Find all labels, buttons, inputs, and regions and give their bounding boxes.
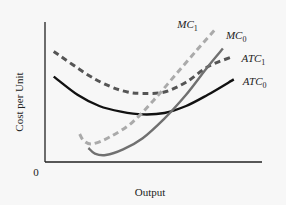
- label-atc1-main: ATC: [241, 52, 262, 64]
- x-axis-label: Output: [135, 186, 166, 198]
- label-mc1-subscript: 1: [194, 24, 198, 33]
- cost-curves-chart: ATC1ATC0MC1MC0 0 Output Cost per Unit: [0, 0, 286, 205]
- y-axis-label: Cost per Unit: [13, 72, 25, 131]
- label-mc1-main: MC: [176, 18, 194, 30]
- chart-background: [0, 0, 286, 205]
- label-atc0-subscript: 0: [263, 81, 267, 90]
- label-mc0-subscript: 0: [242, 35, 246, 44]
- label-atc0-main: ATC: [242, 75, 263, 87]
- label-mc0-main: MC: [225, 29, 243, 41]
- origin-label: 0: [33, 166, 39, 178]
- label-atc1-subscript: 1: [261, 58, 265, 67]
